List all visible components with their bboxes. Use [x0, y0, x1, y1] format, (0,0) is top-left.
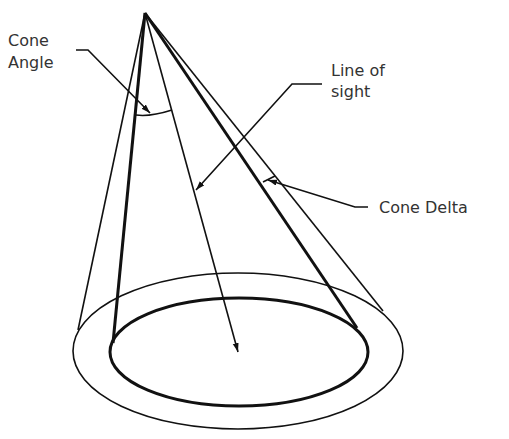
label-line-of-sight-1: Line of	[331, 61, 385, 80]
cone-delta-leader	[268, 180, 368, 207]
inner-ellipse	[110, 298, 368, 406]
outer-cone-right-edge	[145, 13, 383, 311]
cone-diagram: Cone Angle Line of sight Cone Delta	[0, 0, 509, 439]
cone-angle-arc	[136, 110, 172, 115]
inner-cone-right-edge	[145, 13, 357, 328]
label-cone-delta: Cone Delta	[379, 198, 468, 217]
label-cone-angle-2: Angle	[8, 53, 54, 72]
outer-cone-left-edge	[78, 13, 145, 330]
label-line-of-sight-2: sight	[331, 82, 370, 101]
inner-cone-left-edge	[113, 13, 145, 343]
label-cone-angle-1: Cone	[8, 31, 49, 50]
